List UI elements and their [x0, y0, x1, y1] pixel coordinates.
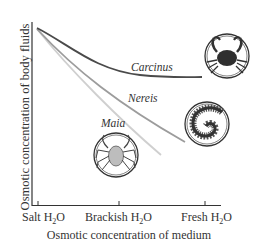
tick-text-tail: O — [143, 210, 152, 224]
carcinus-crab-icon — [205, 34, 249, 78]
series-line-carcinus — [37, 28, 202, 77]
nereis-worm-icon — [185, 102, 229, 146]
series-label-maia: Maia — [101, 117, 125, 129]
x-tick-label-fresh: Fresh H2O — [181, 210, 232, 226]
tick-text: Salt H — [22, 210, 52, 224]
series-label-nereis: Nereis — [128, 92, 158, 104]
x-tick-label-salt: Salt H2O — [22, 210, 65, 226]
tick-text: Fresh H — [181, 210, 219, 224]
y-axis-label: Osmotic concentration of body fluids — [18, 22, 32, 212]
x-tick-label-brackish: Brackish H2O — [85, 210, 152, 226]
tick-text-tail: O — [56, 210, 65, 224]
maia-crab-icon — [94, 133, 138, 177]
x-axis-label: Osmotic concentration of medium — [0, 228, 258, 243]
tick-text-tail: O — [223, 210, 232, 224]
tick-text: Brackish H — [85, 210, 139, 224]
series-label-carcinus: Carcinus — [131, 61, 173, 73]
